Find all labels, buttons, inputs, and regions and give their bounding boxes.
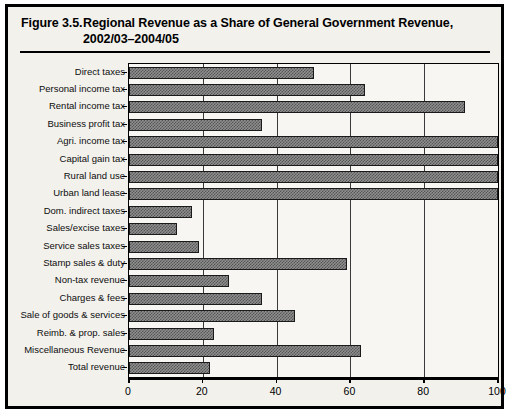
y-axis-label: Rural land use — [7, 171, 125, 181]
y-axis-label: Dom. indirect taxes — [7, 206, 125, 216]
bar-row[interactable] — [129, 168, 498, 185]
y-axis-label: Charges & fees — [7, 293, 125, 303]
y-axis-label: Agri. income tax — [7, 136, 125, 146]
bar-row[interactable] — [129, 360, 498, 377]
chart-plot-wrapper: Direct taxesPersonal income taxRental in… — [8, 7, 507, 412]
bar[interactable] — [129, 188, 498, 200]
y-axis-label: Non-tax revenue — [7, 275, 125, 285]
bar[interactable] — [129, 101, 465, 113]
bar-row[interactable] — [129, 290, 498, 307]
bar-row[interactable] — [129, 99, 498, 116]
bar[interactable] — [129, 84, 365, 96]
bar[interactable] — [129, 119, 262, 131]
bar[interactable] — [129, 154, 498, 166]
x-axis-tick — [497, 378, 499, 383]
x-axis-line — [128, 378, 499, 380]
x-axis-tick-label: 0 — [113, 385, 143, 397]
x-axis-tick-label: 20 — [187, 385, 217, 397]
x-axis-tick-label: 100 — [482, 385, 511, 397]
y-axis-label: Urban land lease — [7, 188, 125, 198]
y-axis-label: Sales/excise taxes — [7, 223, 125, 233]
bar-row[interactable] — [129, 81, 498, 98]
y-axis-label: Service sales taxes — [7, 241, 125, 251]
bar-row[interactable] — [129, 238, 498, 255]
y-axis-label: Personal income tax — [7, 84, 125, 94]
bar-row[interactable] — [129, 273, 498, 290]
bar[interactable] — [129, 362, 210, 374]
bar-row[interactable] — [129, 342, 498, 359]
y-axis-label: Miscellaneous Revenue — [7, 345, 125, 355]
x-axis-tick-label: 60 — [334, 385, 364, 397]
bar[interactable] — [129, 171, 498, 183]
bar-row[interactable] — [129, 134, 498, 151]
figure-frame: Figure 3.5.Regional Revenue as a Share o… — [5, 4, 504, 409]
bar[interactable] — [129, 223, 177, 235]
bar[interactable] — [129, 206, 192, 218]
x-axis-tick — [202, 378, 204, 383]
bar[interactable] — [129, 136, 498, 148]
y-axis-label: Total revenue — [7, 362, 125, 372]
bar[interactable] — [129, 310, 295, 322]
bar[interactable] — [129, 258, 347, 270]
bar-row[interactable] — [129, 307, 498, 324]
y-axis-label: Business profit tax — [7, 119, 125, 129]
bar[interactable] — [129, 328, 214, 340]
x-axis-tick — [128, 378, 130, 383]
y-axis-labels: Direct taxesPersonal income taxRental in… — [8, 63, 125, 376]
bar-row[interactable] — [129, 255, 498, 272]
x-axis-tick — [423, 378, 425, 383]
bar-row[interactable] — [129, 116, 498, 133]
x-axis-tick-label: 80 — [408, 385, 438, 397]
bar[interactable] — [129, 345, 361, 357]
bar-row[interactable] — [129, 203, 498, 220]
bar[interactable] — [129, 241, 199, 253]
bar-row[interactable] — [129, 186, 498, 203]
x-axis-tick — [349, 378, 351, 383]
plot-area — [128, 63, 499, 378]
bar-row[interactable] — [129, 221, 498, 238]
bar-row[interactable] — [129, 64, 498, 81]
bar[interactable] — [129, 275, 229, 287]
bar-row[interactable] — [129, 325, 498, 342]
y-axis-label: Direct taxes — [7, 67, 125, 77]
bar[interactable] — [129, 293, 262, 305]
y-axis-label: Capital gain tax — [7, 154, 125, 164]
y-axis-label: Sale of goods & services — [7, 310, 125, 320]
y-axis-label: Stamp sales & duty — [7, 258, 125, 268]
y-axis-label: Reimb. & prop. sales — [7, 328, 125, 338]
bar-row[interactable] — [129, 151, 498, 168]
x-axis-tick-label: 40 — [261, 385, 291, 397]
x-axis-tick — [276, 378, 278, 383]
y-axis-label: Rental income tax — [7, 101, 125, 111]
bar[interactable] — [129, 67, 314, 79]
